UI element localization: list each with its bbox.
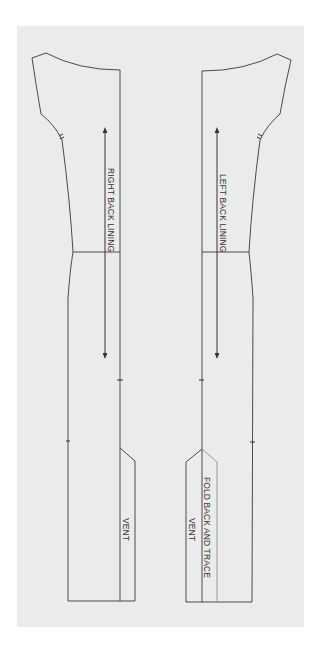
pattern-diagram: RIGHT BACK LINING LEFT BACK LINING VENT … xyxy=(0,0,320,648)
pattern-background xyxy=(17,26,304,627)
fold-back-and-trace-label: FOLD BACK AND TRACE xyxy=(202,477,212,578)
left-vent-label: VENT xyxy=(187,518,197,541)
left-back-lining-label: LEFT BACK LINING xyxy=(218,174,228,252)
right-vent-label: VENT xyxy=(121,518,131,541)
right-back-lining-label: RIGHT BACK LINING xyxy=(106,168,116,252)
